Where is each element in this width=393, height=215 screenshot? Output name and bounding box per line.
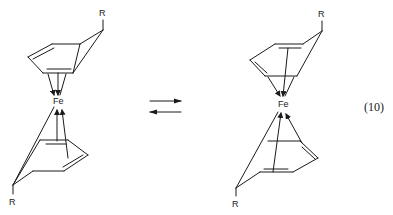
right-top-r-label: R	[318, 9, 325, 19]
left-top-coordination	[48, 73, 66, 95]
right-top-coordination	[268, 48, 294, 96]
left-bottom-r-label: R	[9, 197, 16, 207]
equilibrium-arrows	[150, 101, 181, 112]
equation-number: (10)	[364, 100, 384, 114]
right-bottom-ring	[236, 141, 318, 196]
left-top-r-label: R	[99, 8, 106, 18]
left-complex: R Fe R	[9, 8, 106, 207]
right-bottom-r-label: R	[232, 199, 239, 209]
right-fe-label: Fe	[278, 99, 289, 109]
left-bottom-coordination	[13, 107, 68, 185]
left-top-ring	[28, 20, 103, 73]
reaction-diagram: R Fe R	[0, 0, 393, 215]
right-bottom-coordination	[236, 112, 302, 188]
left-bottom-ring	[13, 140, 88, 194]
left-fe-label: Fe	[53, 96, 64, 106]
right-complex: R Fe R	[232, 9, 325, 209]
